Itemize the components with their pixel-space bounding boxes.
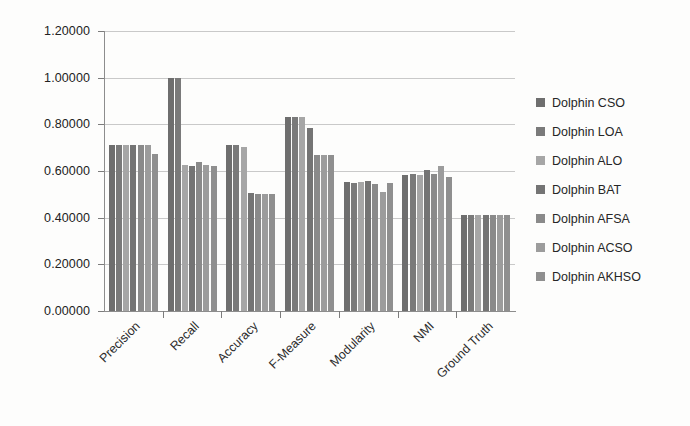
bar [424,170,430,311]
bar [344,182,350,311]
x-label-slot: Precision [104,311,163,421]
y-tick-label: 0.60000 [4,164,90,178]
legend-label: Dolphin AKHSO [552,270,641,284]
bar [431,174,437,311]
bar-group [456,31,515,311]
bar [248,193,254,311]
bar-chart: 1.200001.000000.800000.600000.400000.200… [0,0,690,426]
x-axis-label: NMI [411,319,437,345]
bar [175,78,181,311]
legend: Dolphin CSODolphin LOADolphin ALODolphin… [536,88,686,291]
bar [307,128,313,311]
bar [299,117,305,311]
bar [211,166,217,311]
bar [351,183,357,311]
legend-label: Dolphin LOA [552,125,623,139]
legend-label: Dolphin ACSO [552,241,633,255]
bar [226,145,232,311]
legend-item: Dolphin ALO [536,146,686,175]
legend-swatch-icon [536,214,545,223]
x-label-slot: Ground Truth [456,311,515,421]
bar [365,181,371,311]
bar [123,145,129,311]
bar-group [339,31,398,311]
bar [130,145,136,311]
x-label-slot: Modularity [339,311,398,421]
bar [233,145,239,311]
legend-item: Dolphin LOA [536,117,686,146]
legend-item: Dolphin BAT [536,175,686,204]
legend-label: Dolphin BAT [552,183,621,197]
legend-label: Dolphin ALO [552,154,622,168]
plot-area [104,31,515,311]
x-label-slot: F-Measure [280,311,339,421]
bar-group [280,31,339,311]
legend-swatch-icon [536,243,545,252]
legend-item: Dolphin AFSA [536,204,686,233]
bar [182,165,188,311]
bar-group [221,31,280,311]
bar [203,165,209,311]
y-tick-label: 0.20000 [4,257,90,271]
bar [328,155,334,311]
bar-group [104,31,163,311]
bar [380,192,386,311]
bar [475,215,481,311]
legend-label: Dolphin CSO [552,96,625,110]
legend-item: Dolphin ACSO [536,233,686,262]
x-axis-label: Recall [167,319,201,353]
bar [461,215,467,311]
bar-group [398,31,457,311]
bar [497,215,503,311]
bar [402,175,408,312]
legend-swatch-icon [536,127,545,136]
bar [196,162,202,311]
y-tick-label: 1.20000 [4,24,90,38]
legend-swatch-icon [536,185,545,194]
bar [168,78,174,311]
legend-item: Dolphin CSO [536,88,686,117]
bar [387,183,393,311]
bar [262,194,268,311]
bar [358,182,364,311]
legend-item: Dolphin AKHSO [536,262,686,291]
bar [116,145,122,311]
x-axis-label: Accuracy [214,319,260,365]
bar [468,215,474,311]
y-tick-label: 0.80000 [4,117,90,131]
bar [138,145,144,311]
bar [321,155,327,311]
bar [504,215,510,311]
y-tick-label: 1.00000 [4,71,90,85]
bar [446,177,452,311]
bar [285,117,291,311]
bar [145,145,151,311]
x-axis-labels: PrecisionRecallAccuracyF-MeasureModulari… [104,311,515,421]
y-tick-label: 0.00000 [4,304,90,318]
bar-groups [104,31,515,311]
bar-group [163,31,222,311]
x-axis-label: Precision [97,319,143,365]
bar [314,155,320,311]
bar [490,215,496,311]
y-tick-label: 0.40000 [4,211,90,225]
bar [438,166,444,311]
bar [152,154,158,312]
legend-swatch-icon [536,272,545,281]
bar [410,174,416,311]
legend-swatch-icon [536,156,545,165]
bar [292,117,298,311]
legend-swatch-icon [536,98,545,107]
bar [483,215,489,311]
bar [109,145,115,311]
bar [189,166,195,311]
bar [241,147,247,312]
bar [372,184,378,311]
bar [255,194,261,311]
x-label-slot: Recall [163,311,222,421]
bar [269,194,275,311]
bar [417,175,423,311]
legend-label: Dolphin AFSA [552,212,630,226]
